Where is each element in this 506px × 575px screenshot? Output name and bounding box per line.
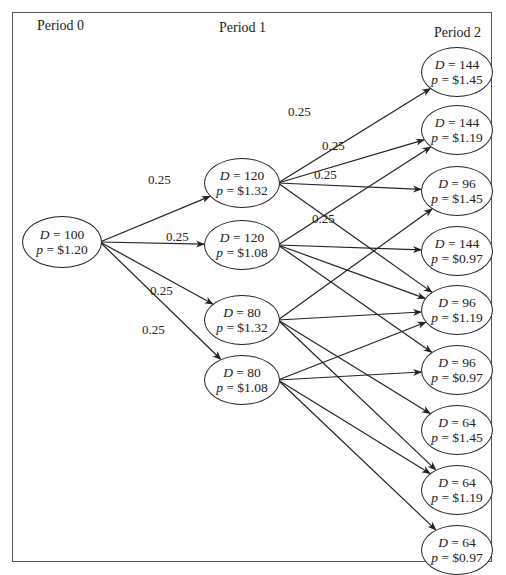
edge-p1-3-to-p2-5 [278,372,421,380]
price-value: p = $1.32 [216,320,268,335]
price-value: p = $1.32 [216,183,268,198]
price-value: p = $1.19 [431,130,483,145]
demand-value: D = 64 [438,475,476,490]
price-value: p = $0.97 [431,550,483,565]
probability-label-p0-p1-1: 0.25 [166,229,189,245]
demand-value: D = 96 [438,176,476,191]
price-value: p = $1.08 [216,380,268,395]
edge-p0-0-to-p1-3 [100,242,221,359]
node-p2-3: D = 144p = $0.97 [421,226,493,276]
edge-p1-2-to-p2-2 [278,209,432,320]
probability-label-p1-p2-2: 0.25 [314,167,337,183]
demand-value: D = 80 [223,305,261,320]
node-p1-1: D = 120p = $1.08 [204,220,280,270]
demand-value: D = 64 [438,415,476,430]
edge-p1-0-to-p2-0 [278,89,430,183]
node-p1-0: D = 120p = $1.32 [204,158,280,208]
demand-value: D = 120 [220,168,264,183]
price-value: p = $1.19 [431,490,483,505]
demand-value: D = 64 [438,535,476,550]
demand-value: D = 144 [435,115,479,130]
period-2-label: Period 2 [434,25,481,41]
price-value: p = $1.45 [431,191,483,206]
node-p2-7: D = 64p = $1.19 [421,465,493,515]
price-value: p = $0.97 [431,251,483,266]
period-0-label: Period 0 [37,18,84,34]
price-value: p = $1.19 [431,310,483,325]
node-p1-3: D = 80p = $1.08 [204,355,280,405]
demand-value: D = 96 [438,295,476,310]
edge-p1-0-to-p2-1 [278,140,424,183]
node-p2-6: D = 64p = $1.45 [421,405,493,455]
period-1-label: Period 1 [219,20,266,36]
demand-value: D = 100 [40,227,84,242]
probability-label-p1-p2-0: 0.25 [288,104,311,120]
edge-p1-0-to-p2-4 [278,183,432,292]
node-p0-0: D = 100p = $1.20 [22,216,102,268]
edge-p1-2-to-p2-6 [278,320,430,413]
probability-label-p1-p2-3: 0.25 [312,211,335,227]
node-p2-0: D = 144p = $1.45 [421,47,493,97]
node-p2-4: D = 96p = $1.19 [421,285,493,335]
node-p2-1: D = 144p = $1.19 [421,105,493,155]
edge-p0-0-to-p1-0 [100,196,210,242]
node-p2-8: D = 64p = $0.97 [421,525,493,575]
edge-p1-3-to-p2-7 [278,380,430,473]
probability-label-p0-p1-2: 0.25 [150,283,173,299]
probability-label-p0-p1-3: 0.25 [142,322,165,338]
node-p2-2: D = 96p = $1.45 [421,166,493,216]
price-value: p = $1.45 [431,72,483,87]
demand-value: D = 120 [220,230,264,245]
price-value: p = $1.45 [431,430,483,445]
demand-value: D = 144 [435,236,479,251]
demand-value: D = 80 [223,365,261,380]
edge-p1-0-to-p2-2 [278,183,421,189]
demand-value: D = 144 [435,57,479,72]
edge-p1-1-to-p2-5 [278,245,432,352]
probability-label-p1-p2-1: 0.25 [322,138,345,154]
price-value: p = $0.97 [431,370,483,385]
price-value: p = $1.20 [36,242,88,257]
probability-label-p0-p1-0: 0.25 [148,172,171,188]
edge-p1-1-to-p2-3 [278,245,421,250]
edge-p1-3-to-p2-4 [278,322,426,380]
node-p2-5: D = 96p = $0.97 [421,345,493,395]
node-p1-2: D = 80p = $1.32 [204,295,280,345]
price-value: p = $1.08 [216,245,268,260]
demand-value: D = 96 [438,355,476,370]
edge-p1-1-to-p2-1 [278,147,431,245]
edge-p1-2-to-p2-4 [278,312,421,320]
